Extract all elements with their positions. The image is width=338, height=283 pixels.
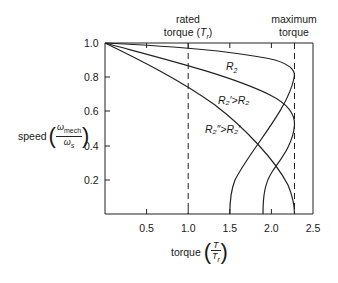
rated-label-line2: torque (Tr) xyxy=(164,26,212,43)
x-tick-1.5: 1.5 xyxy=(222,222,237,234)
x-axis-label: torque ( T Tr ) xyxy=(171,240,228,265)
x-tick-1.0: 1.0 xyxy=(181,222,196,234)
rated-label-line1: rated xyxy=(176,13,200,25)
max-label-line2: torque xyxy=(279,26,309,38)
curve-label-r2-prime: R₂′>R₂ xyxy=(218,94,249,106)
y-tick-1.0: 1.0 xyxy=(84,37,99,49)
curve-r2-prime xyxy=(105,43,295,214)
curve-label-r2: R2 xyxy=(226,60,238,77)
y-tick-0.6: 0.6 xyxy=(84,105,99,117)
curve-label-r2-double-prime: R₂″>R₂′ xyxy=(205,123,240,135)
y-tick-0.2: 0.2 xyxy=(84,174,99,186)
x-tick-0.5: 0.5 xyxy=(139,222,154,234)
y-tick-0.8: 0.8 xyxy=(84,71,99,83)
max-label-line1: maximum xyxy=(271,13,317,25)
x-tick-2.0: 2.0 xyxy=(264,222,279,234)
x-tick-2.5: 2.5 xyxy=(306,222,321,234)
y-axis-label: speed ( ωmech ωs ) xyxy=(18,122,89,151)
